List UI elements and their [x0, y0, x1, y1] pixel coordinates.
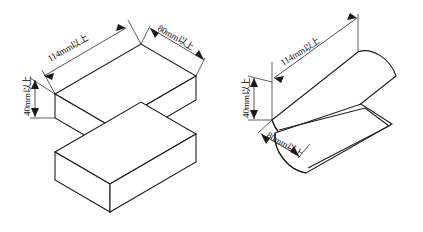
arrow-head	[44, 73, 54, 80]
arrow-head	[31, 108, 39, 117]
right-height-label: 40mm以上	[241, 78, 251, 118]
arrow-head	[31, 80, 39, 89]
right-height-dimension: 40mm以上	[241, 76, 272, 120]
arrow-head	[250, 78, 258, 87]
left-height-label: 40mm以上	[22, 76, 32, 116]
left-width-label: 80mm以上	[156, 23, 196, 52]
right-figure-group: 114mm以上 40mm以上 80mm以上	[241, 13, 396, 173]
left-height-dimension: 40mm以上	[22, 76, 55, 118]
arrow-head	[195, 50, 204, 60]
right-length-label: 114mm以上	[279, 36, 322, 68]
arrow-head	[116, 24, 126, 31]
technical-drawing-canvas: 114mm以上 80mm以上 40mm以上	[0, 0, 423, 232]
left-length-label: 114mm以上	[46, 33, 90, 64]
arrow-head	[250, 110, 258, 119]
left-figure-group: 114mm以上 80mm以上 40mm以上	[22, 20, 205, 212]
engineering-drawing: 114mm以上 80mm以上 40mm以上	[0, 0, 423, 232]
